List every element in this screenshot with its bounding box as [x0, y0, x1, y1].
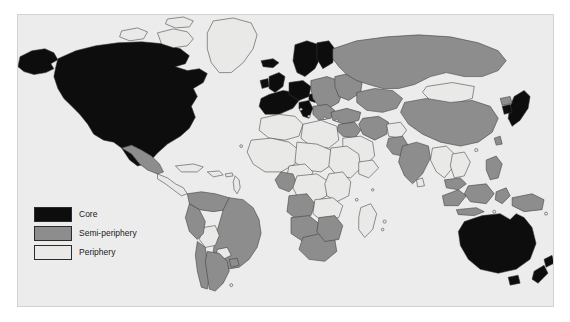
- island-cyprus: [336, 119, 338, 121]
- legend-item-periphery: Periphery: [34, 244, 158, 261]
- world-map-panel: Core Semi-periphery Periphery: [17, 14, 554, 307]
- island-reunion: [381, 228, 384, 231]
- legend-label-semi-periphery: Semi-periphery: [79, 229, 137, 238]
- island-sicily: [308, 115, 311, 118]
- legend-item-semi-periphery: Semi-periphery: [34, 225, 158, 242]
- legend-swatch-core: [34, 207, 72, 222]
- region-uruguay: [229, 258, 239, 267]
- region-south-korea: [502, 104, 512, 114]
- legend-swatch-semi-periphery: [34, 226, 72, 241]
- island-falklands: [230, 284, 233, 287]
- island-crete: [324, 117, 327, 120]
- legend-label-periphery: Periphery: [79, 248, 115, 257]
- map-legend: Core Semi-periphery Periphery: [34, 206, 158, 270]
- region-puerto-rico: [225, 173, 233, 177]
- island-hainan: [475, 148, 478, 151]
- island-timor: [493, 210, 496, 213]
- region-tasmania: [508, 275, 520, 285]
- legend-item-core: Core: [34, 206, 158, 223]
- region-ireland: [260, 79, 269, 89]
- island-seychelles: [371, 189, 373, 191]
- island-sardinia: [300, 108, 303, 111]
- legend-swatch-periphery: [34, 245, 72, 260]
- legend-label-core: Core: [79, 210, 97, 219]
- island-solomon-islands: [545, 212, 548, 215]
- island-comoros: [355, 198, 358, 201]
- island-mauritius: [383, 220, 386, 223]
- island-cape-verde: [240, 145, 243, 148]
- map-figure: Core Semi-periphery Periphery: [0, 0, 570, 322]
